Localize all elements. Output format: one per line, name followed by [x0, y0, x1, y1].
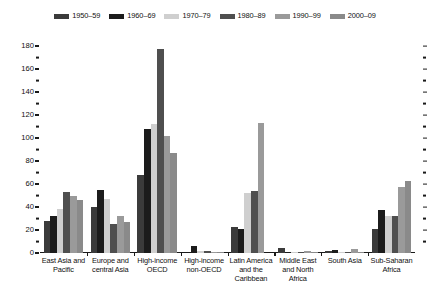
y-axis-tick-mark — [35, 252, 39, 253]
y-axis-tick-label: 140 — [21, 88, 35, 96]
bar — [63, 192, 70, 253]
bar-groups — [40, 46, 415, 253]
bar — [117, 216, 124, 253]
legend-label: 1990–99 — [293, 12, 321, 20]
y-axis-tick: 180 — [21, 42, 40, 50]
y-axis-tick-mark — [36, 57, 39, 58]
bar — [151, 124, 158, 253]
y-axis-tick-mark — [36, 103, 39, 104]
y-axis-tick-mark — [35, 68, 39, 69]
legend-swatch — [54, 14, 69, 19]
y-axis-tick-label: 100 — [21, 134, 35, 142]
y-axis-tick-mark — [35, 183, 39, 184]
bar — [44, 221, 51, 253]
y-axis-right-tick — [423, 160, 427, 161]
legend-label: 1970–79 — [182, 12, 210, 20]
bar — [137, 175, 144, 253]
bar-group — [274, 46, 321, 253]
y-axis-right-minor-tick — [423, 241, 426, 242]
bar-group — [181, 46, 228, 253]
bar — [325, 251, 332, 253]
y-axis-right-tick — [423, 229, 427, 230]
y-axis-tick: 0 — [30, 249, 40, 257]
legend-label: 1980–89 — [238, 12, 266, 20]
x-axis-category-label: East Asia andPacific — [40, 256, 87, 284]
y-axis-right-minor-tick — [423, 126, 426, 127]
bar-group — [134, 46, 181, 253]
bar — [164, 136, 171, 253]
bar — [285, 252, 292, 253]
y-axis-tick-mark — [35, 229, 39, 230]
bar — [144, 129, 151, 253]
x-axis-category-label: South Asia — [321, 256, 368, 284]
y-axis-tick-mark — [35, 114, 39, 115]
legend-label: 1960–69 — [127, 12, 155, 20]
x-axis-category-label: High-incomenon-OECD — [181, 256, 228, 284]
y-axis-tick-mark — [35, 137, 39, 138]
bar — [70, 196, 77, 254]
bar — [191, 246, 198, 253]
y-axis-tick: 80 — [26, 157, 40, 165]
y-axis-tick-mark — [35, 91, 39, 92]
bar — [57, 209, 64, 253]
y-axis-right-tick — [423, 114, 427, 115]
bar — [91, 207, 98, 253]
y-axis-tick-mark — [36, 195, 39, 196]
y-axis-tick-mark — [36, 241, 39, 242]
x-axis-category-label: High-incomeOECD — [134, 256, 181, 284]
y-axis-tick: 160 — [21, 65, 40, 73]
bar-group — [40, 46, 87, 253]
bar — [97, 190, 104, 253]
y-axis-right-tick — [423, 91, 427, 92]
legend-item: 1950–59 — [54, 12, 100, 20]
y-axis-tick-label: 60 — [26, 180, 35, 188]
bar — [110, 224, 117, 253]
y-axis-right-minor-tick — [423, 149, 426, 150]
bar-group — [321, 46, 368, 253]
y-axis-right-minor-tick — [423, 57, 426, 58]
y-axis-right-minor-tick — [423, 80, 426, 81]
y-axis-right-tick — [423, 206, 427, 207]
bar — [338, 252, 345, 253]
bar — [311, 252, 318, 253]
y-axis-right-minor-tick — [423, 172, 426, 173]
y-axis-tick: 20 — [26, 226, 40, 234]
chart-legend: 1950–591960–691970–791980–891990–992000–… — [0, 12, 430, 20]
y-axis-tick-mark — [36, 149, 39, 150]
x-axis-category-label: Sub-SaharanAfrica — [368, 256, 415, 284]
y-axis-tick-mark — [35, 206, 39, 207]
legend-swatch — [330, 14, 345, 19]
bar — [204, 251, 211, 253]
y-axis-tick-mark — [35, 45, 39, 46]
bar — [157, 49, 164, 253]
bar — [405, 181, 412, 253]
legend-swatch — [220, 14, 235, 19]
y-axis-right-tick — [423, 183, 427, 184]
y-axis-right-minor-tick — [423, 195, 426, 196]
legend-item: 2000–09 — [330, 12, 376, 20]
legend-label: 1950–59 — [72, 12, 100, 20]
bar-group — [368, 46, 415, 253]
y-axis-tick-mark — [36, 172, 39, 173]
y-axis-tick-mark — [36, 126, 39, 127]
y-axis-tick-label: 20 — [26, 226, 35, 234]
bar — [170, 153, 177, 253]
grouped-bar-chart: 1950–591960–691970–791980–891990–992000–… — [0, 0, 430, 302]
y-axis-tick: 140 — [21, 88, 40, 96]
bar — [238, 229, 245, 253]
bar — [77, 200, 84, 253]
y-axis-tick-mark — [36, 80, 39, 81]
y-axis-right-minor-tick — [423, 103, 426, 104]
y-axis-tick-label: 40 — [26, 203, 35, 211]
y-axis-tick-label: 160 — [21, 65, 35, 73]
y-axis-tick-label: 80 — [26, 157, 35, 165]
bar — [244, 193, 251, 253]
bar — [258, 123, 265, 253]
bar — [378, 210, 385, 253]
bar — [217, 252, 224, 253]
x-axis-category-label: Middle Eastand NorthAfrica — [274, 256, 321, 284]
y-axis-tick: 40 — [26, 203, 40, 211]
y-axis-tick-mark — [36, 218, 39, 219]
bar — [345, 252, 352, 253]
bar — [197, 251, 204, 253]
